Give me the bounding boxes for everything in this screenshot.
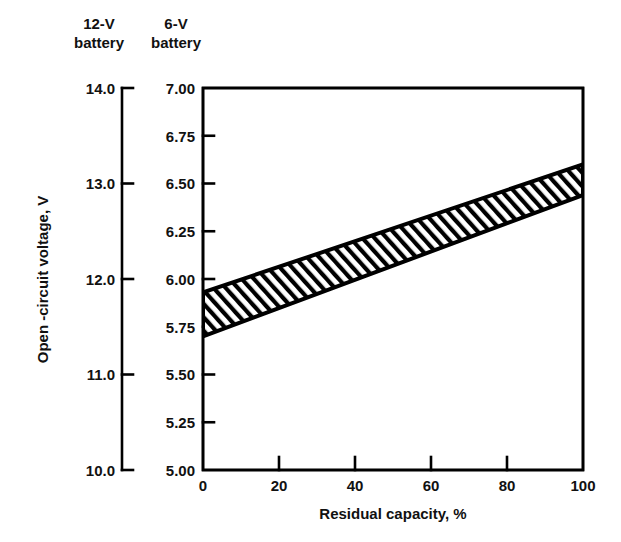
y-axis-ticks [203, 136, 214, 423]
plot-canvas [0, 0, 621, 542]
voltage-band [203, 164, 583, 336]
secondary-y-axis [122, 88, 133, 470]
chart-figure: 12-V battery 6-V battery Open -circuit v… [0, 0, 621, 542]
x-axis-ticks [279, 457, 507, 470]
